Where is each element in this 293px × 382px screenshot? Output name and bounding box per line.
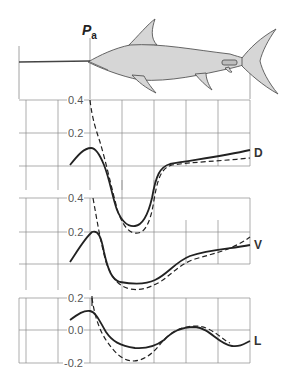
d-series-label: D — [254, 146, 263, 160]
curves-panel-v — [70, 198, 250, 290]
curves-panel-l — [70, 296, 250, 361]
l-series-label: L — [254, 334, 261, 348]
pa-marker-subscript: a — [91, 30, 97, 41]
v-tick-top: 0.4 — [67, 193, 84, 204]
pa-marker-text: P — [82, 22, 91, 38]
grid-panel-l — [19, 290, 250, 363]
curves-panel-d — [70, 100, 250, 233]
l-solid-curve — [70, 311, 250, 348]
d-tick-top: 0.4 — [67, 95, 84, 106]
l-tick-top: 0.2 — [67, 293, 84, 304]
pa-marker-label: Pa — [82, 22, 97, 41]
v-dashed-curve — [93, 198, 250, 290]
d-solid-curve — [70, 148, 250, 226]
l-tick-bot: -0.2 — [63, 358, 84, 369]
d-dashed-curve — [90, 100, 250, 233]
v-series-label: V — [254, 238, 262, 252]
swordfish-bill — [19, 61, 90, 62]
d-tick-mid: 0.2 — [67, 128, 84, 139]
swordfish-icon — [88, 19, 278, 94]
grid-panel-v — [19, 180, 250, 290]
l-tick-mid: 0.0 — [67, 325, 84, 336]
figure-canvas — [0, 0, 293, 382]
v-solid-curve — [70, 232, 250, 284]
grid-panel-d — [19, 100, 250, 190]
l-dashed-curve — [92, 298, 230, 361]
swordfish-pressure-figure: Pa 0.4 0.2 D 0.4 0.2 V 0.2 0.0 -0.2 L — [0, 0, 293, 382]
v-tick-mid: 0.2 — [67, 227, 84, 238]
